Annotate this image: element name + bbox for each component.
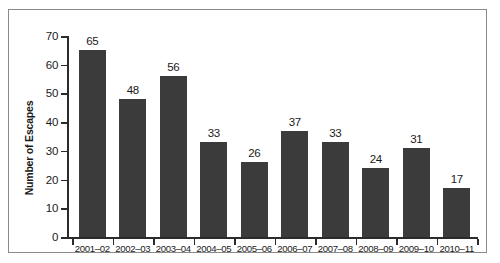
bar: 48 bbox=[119, 99, 146, 237]
y-tick-mark bbox=[61, 36, 67, 38]
y-tick-mark bbox=[61, 122, 67, 124]
bar-value-label: 33 bbox=[208, 127, 220, 139]
y-tick-mark bbox=[61, 208, 67, 210]
x-tick-mark bbox=[315, 239, 317, 245]
bar-value-label: 48 bbox=[127, 84, 139, 96]
y-tick-label: 40 bbox=[46, 116, 58, 128]
bar-value-label: 56 bbox=[167, 61, 179, 73]
bar: 26 bbox=[241, 162, 268, 237]
y-tick-mark bbox=[61, 237, 67, 239]
x-tick-mark bbox=[72, 239, 74, 245]
y-axis-line bbox=[67, 36, 69, 239]
bar: 24 bbox=[362, 168, 389, 237]
bar-value-label: 65 bbox=[86, 35, 98, 47]
y-tick-label: 60 bbox=[46, 59, 58, 71]
x-tick-mark bbox=[396, 239, 398, 245]
x-tick-label: 2001–02 bbox=[75, 243, 110, 254]
y-tick-label: 0 bbox=[52, 231, 58, 243]
x-axis-line bbox=[67, 237, 478, 239]
bar-value-label: 17 bbox=[451, 173, 463, 185]
bar: 17 bbox=[443, 188, 470, 237]
y-tick-mark bbox=[61, 151, 67, 153]
y-axis-title-label: Number of Escapes bbox=[23, 88, 35, 208]
chart-frame: Number of Escapes 010203040506070 654856… bbox=[8, 9, 487, 253]
x-tick-label: 2002–03 bbox=[115, 243, 150, 254]
x-tick-label: 2005–06 bbox=[237, 243, 272, 254]
bar: 33 bbox=[200, 142, 227, 237]
bar: 65 bbox=[79, 50, 106, 237]
y-tick-label: 50 bbox=[46, 87, 58, 99]
y-tick-label: 30 bbox=[46, 145, 58, 157]
plot-area: 010203040506070 65485633263733243117 200… bbox=[67, 36, 478, 239]
bar-value-label: 31 bbox=[410, 133, 422, 145]
y-axis-title: Number of Escapes bbox=[23, 0, 37, 88]
x-tick-label: 2006–07 bbox=[277, 243, 312, 254]
x-tick-label: 2009–10 bbox=[399, 243, 434, 254]
x-tick-label: 2003–04 bbox=[156, 243, 191, 254]
bar-value-label: 37 bbox=[289, 116, 301, 128]
y-tick-label: 70 bbox=[46, 30, 58, 42]
bar: 56 bbox=[160, 76, 187, 237]
x-tick-label: 2008–09 bbox=[358, 243, 393, 254]
x-tick-label: 2004–05 bbox=[196, 243, 231, 254]
x-tick-mark bbox=[356, 239, 358, 245]
y-tick-mark bbox=[61, 180, 67, 182]
x-tick-mark bbox=[275, 239, 277, 245]
bar-value-label: 26 bbox=[248, 147, 260, 159]
x-tick-mark bbox=[194, 239, 196, 245]
x-tick-mark bbox=[113, 239, 115, 245]
x-tick-mark bbox=[437, 239, 439, 245]
bar: 37 bbox=[281, 131, 308, 237]
x-tick-mark bbox=[477, 239, 479, 245]
x-tick-mark bbox=[234, 239, 236, 245]
bar: 31 bbox=[403, 148, 430, 237]
y-tick-label: 20 bbox=[46, 174, 58, 186]
y-tick-label: 10 bbox=[46, 202, 58, 214]
x-tick-mark bbox=[153, 239, 155, 245]
bar: 33 bbox=[322, 142, 349, 237]
bar-value-label: 24 bbox=[370, 153, 382, 165]
y-tick-mark bbox=[61, 65, 67, 67]
chart-screenshot: Number of Escapes 010203040506070 654856… bbox=[0, 0, 500, 263]
x-tick-label: 2007–08 bbox=[318, 243, 353, 254]
bar-value-label: 33 bbox=[329, 127, 341, 139]
y-tick-mark bbox=[61, 93, 67, 95]
x-tick-label: 2010–11 bbox=[439, 243, 474, 254]
